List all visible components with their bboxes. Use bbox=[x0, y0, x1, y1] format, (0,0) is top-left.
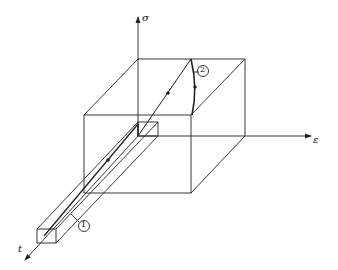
bar-far-end bbox=[138, 122, 158, 136]
stress-strain-time-diagram bbox=[0, 0, 338, 270]
epsilon-label: ε bbox=[313, 135, 318, 145]
marker-1-label: 1 bbox=[81, 221, 86, 229]
time-label: t bbox=[18, 244, 22, 254]
time-axis bbox=[25, 136, 138, 260]
marker-2-label: 2 bbox=[200, 66, 205, 74]
sigma-label: σ bbox=[142, 13, 149, 23]
loading-line bbox=[138, 59, 191, 136]
cube-back-face bbox=[138, 59, 245, 136]
path-1 bbox=[44, 124, 138, 236]
